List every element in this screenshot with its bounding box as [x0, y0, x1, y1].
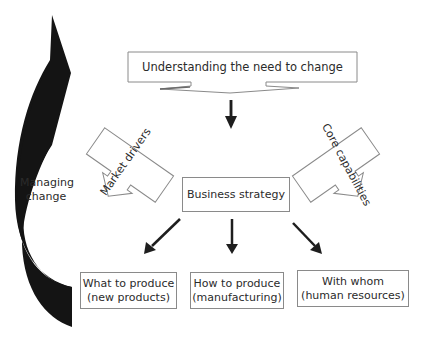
- with-whom-line2: (human resources): [301, 289, 405, 303]
- arrow-to-what-icon: [144, 219, 180, 254]
- arrow-to-how-icon: [226, 219, 238, 254]
- understanding-need-label: Understanding the need to change: [128, 60, 357, 74]
- change-management-diagram: Understanding the need to change Managin…: [0, 0, 421, 342]
- business-strategy-box: Business strategy: [182, 177, 290, 212]
- how-to-produce-line2: (manufacturing): [192, 291, 281, 305]
- what-to-produce-line2: (new products): [87, 291, 170, 305]
- what-to-produce-box: What to produce (new products): [80, 272, 177, 309]
- arrow-to-whom-icon: [293, 223, 322, 254]
- how-to-produce-line1: How to produce: [194, 277, 281, 291]
- with-whom-line1: With whom: [322, 275, 384, 289]
- business-strategy-label: Business strategy: [187, 188, 285, 202]
- what-to-produce-line1: What to produce: [83, 277, 175, 291]
- arrow-down-to-strategy-icon: [225, 100, 237, 129]
- how-to-produce-box: How to produce (manufacturing): [190, 272, 284, 309]
- managing-change-label-line1: Managing: [20, 176, 72, 190]
- managing-change-label-line2: change: [20, 190, 72, 204]
- with-whom-box: With whom (human resources): [297, 270, 409, 307]
